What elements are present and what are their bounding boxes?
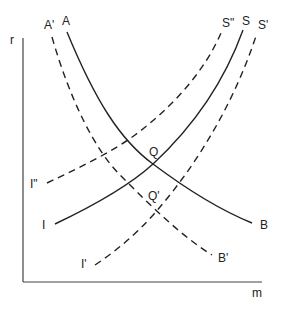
- x-axis-label: m: [252, 286, 262, 300]
- label-b-prime: B': [218, 251, 228, 265]
- label-a: A: [62, 14, 70, 28]
- label-i-double-prime: I": [30, 177, 38, 191]
- label-i: I: [42, 218, 45, 232]
- y-axis-label: r: [10, 33, 14, 47]
- label-s: S: [242, 14, 250, 28]
- curve-i-prime-s-prime: [95, 36, 256, 265]
- label-s-double-prime: S": [222, 16, 234, 30]
- label-s-prime: S': [258, 18, 268, 32]
- label-i-prime: I': [81, 257, 87, 271]
- diagram-canvas: r m A B A' B' I S I' S' I" S" Q Q': [0, 0, 283, 313]
- label-q: Q: [149, 145, 158, 159]
- label-q-prime: Q': [148, 189, 160, 203]
- label-a-prime: A': [44, 18, 54, 32]
- label-b: B: [260, 218, 268, 232]
